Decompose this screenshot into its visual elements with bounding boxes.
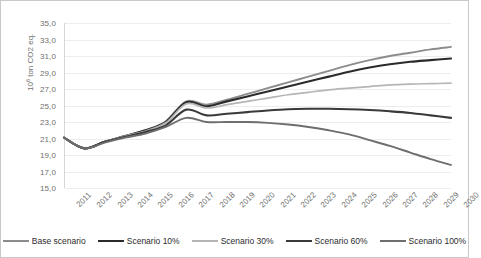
legend-line-icon	[192, 240, 218, 242]
y-axis-tick-label: 31,0	[40, 52, 56, 61]
y-axis-tick-label: 21,0	[40, 134, 56, 143]
x-axis-tick-label: 2014	[136, 190, 155, 209]
y-axis-tick-label: 35,0	[40, 19, 56, 28]
x-axis-tick-label: 2026	[380, 190, 399, 209]
y-axis-tick-label: 33,0	[40, 35, 56, 44]
x-axis-tick-label: 2024	[340, 190, 359, 209]
x-axis-tick-label: 2019	[238, 190, 257, 209]
x-axis-tick-label: 2015	[156, 190, 175, 209]
legend-item[interactable]: Scenario 60%	[286, 236, 368, 246]
series-line	[64, 58, 451, 148]
series-line	[64, 118, 451, 165]
x-axis-tick-label: 2029	[441, 190, 460, 209]
series-lines	[64, 23, 451, 188]
legend-line-icon	[3, 240, 29, 242]
x-axis-tick-label: 2023	[319, 190, 338, 209]
y-axis-tick-labels: 35,033,031,029,027,025,023,021,019,017,0…	[1, 23, 61, 188]
y-axis-tick-label: 23,0	[40, 118, 56, 127]
x-axis-tick-label: 2021	[278, 190, 297, 209]
y-axis-tick-label: 19,0	[40, 151, 56, 160]
x-axis-tick-label: 2013	[116, 190, 135, 209]
x-axis-tick-label: 2028	[421, 190, 440, 209]
x-axis-tick-label: 2017	[197, 190, 216, 209]
legend-line-icon	[380, 240, 406, 242]
legend-label: Scenario 30%	[221, 236, 274, 246]
x-axis-tick-label: 2012	[95, 190, 114, 209]
legend-item[interactable]: Scenario 10%	[98, 236, 180, 246]
x-axis-tick-label: 2027	[401, 190, 420, 209]
legend-label: Base scenario	[32, 236, 86, 246]
legend-line-icon	[98, 240, 124, 242]
y-axis-tick-label: 25,0	[40, 101, 56, 110]
x-axis-tick-label: 2025	[360, 190, 379, 209]
x-axis-tick-label: 2022	[299, 190, 318, 209]
x-axis-tick-labels: 2011201220132014201520162017201820192020…	[64, 189, 451, 225]
y-axis-tick-label: 17,0	[40, 167, 56, 176]
x-axis-tick-label: 2016	[177, 190, 196, 209]
legend-item[interactable]: Scenario 30%	[192, 236, 274, 246]
legend-label: Scenario 60%	[315, 236, 368, 246]
legend-item[interactable]: Base scenario	[3, 236, 86, 246]
x-axis-tick-label: 2011	[75, 190, 94, 209]
x-axis-tick-label: 2030	[462, 190, 481, 209]
x-axis-tick-label: 2018	[217, 190, 236, 209]
x-axis-tick-label: 2020	[258, 190, 277, 209]
legend-item[interactable]: Scenario 100%	[380, 236, 467, 246]
legend-label: Scenario 100%	[409, 236, 467, 246]
y-axis-tick-label: 29,0	[40, 68, 56, 77]
y-axis-tick-label: 27,0	[40, 85, 56, 94]
plot-area	[64, 23, 451, 188]
legend-line-icon	[286, 240, 312, 242]
legend-label: Scenario 10%	[127, 236, 180, 246]
series-line	[64, 47, 451, 149]
chart-legend: Base scenarioScenario 10%Scenario 30%Sce…	[9, 232, 460, 250]
y-axis-tick-label: 15,0	[40, 184, 56, 193]
series-line	[64, 109, 451, 149]
